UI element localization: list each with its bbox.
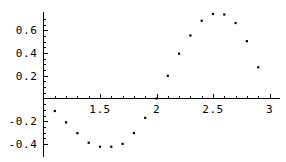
data-point [235,22,237,24]
data-point-series [54,13,260,148]
data-point [54,110,56,112]
data-point [144,117,146,119]
data-point [122,143,124,145]
data-point [76,132,78,134]
data-point [189,34,191,36]
x-tick-label: 1.5 [89,103,111,116]
data-point [155,97,157,99]
y-tick-label: 0.2 [16,70,38,83]
y-axis-tick-labels: -0.4-0.20.20.40.6 [9,24,38,150]
y-tick-label: -0.4 [9,138,38,151]
scatter-plot-canvas: 1.522.53 -0.4-0.20.20.40.6 [0,0,286,162]
x-tick-label: 3 [266,103,273,116]
data-point [99,146,101,148]
data-point [212,13,214,15]
data-point [167,75,169,77]
plot-root: 1.522.53 -0.4-0.20.20.40.6 [0,0,286,162]
data-point [88,142,90,144]
data-point [257,66,259,68]
data-point [110,146,112,148]
data-point [223,13,225,15]
x-axis-major-ticks [101,94,271,99]
data-point [65,121,67,123]
y-tick-label: 0.4 [16,47,38,60]
data-point [133,132,135,134]
x-tick-label: 2.5 [202,103,224,116]
data-point [246,40,248,42]
data-point [178,53,180,55]
data-point [201,20,203,22]
y-tick-label: 0.6 [16,24,38,37]
x-tick-label: 2 [153,103,160,116]
x-axis-tick-labels: 1.522.53 [89,103,273,116]
axes-group [43,12,280,157]
y-tick-label: -0.2 [9,115,38,128]
